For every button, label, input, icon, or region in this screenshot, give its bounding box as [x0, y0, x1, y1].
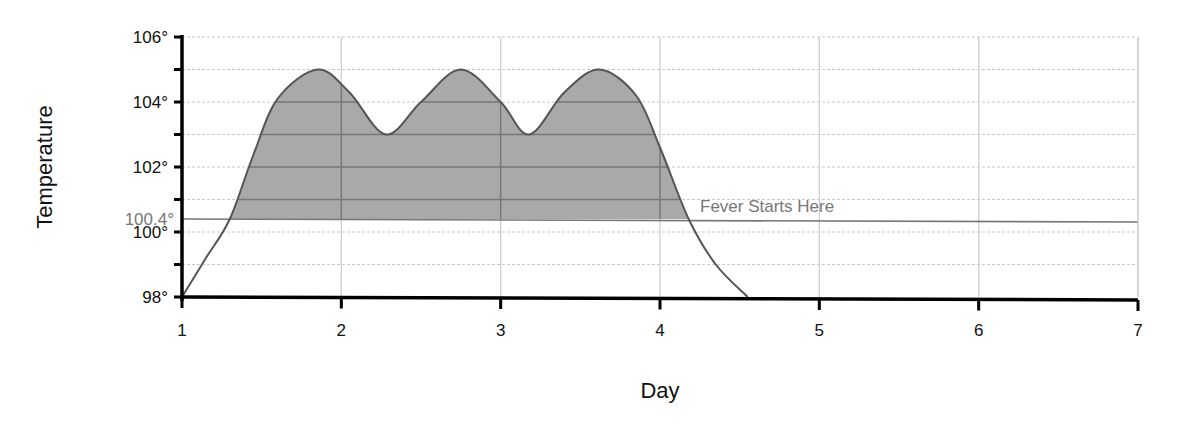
y-tick-label: 98° [142, 288, 168, 307]
y-axis-ticks: 98°100°102°104°106° [133, 28, 182, 307]
y-tick-label: 102° [133, 158, 168, 177]
fever-temperature-chart: 98°100°102°104°106° 1234567 100.4° Fever… [0, 0, 1182, 431]
x-tick-label: 2 [337, 321, 346, 340]
y-tick-label: 106° [133, 28, 168, 47]
x-axis-ticks: 1234567 [177, 297, 1142, 340]
x-tick-label: 4 [655, 321, 664, 340]
x-tick-label: 5 [815, 321, 824, 340]
x-tick-label: 3 [496, 321, 505, 340]
x-axis-title: Day [640, 378, 679, 403]
x-tick-label: 7 [1133, 321, 1142, 340]
y-axis-title: Temperature [32, 105, 57, 229]
x-tick-label: 6 [974, 321, 983, 340]
fever-shaded-area [182, 69, 748, 297]
x-tick-label: 1 [177, 321, 186, 340]
threshold-value-label: 100.4° [125, 210, 174, 229]
y-tick-label: 104° [133, 93, 168, 112]
fever-annotation: Fever Starts Here [700, 197, 834, 216]
